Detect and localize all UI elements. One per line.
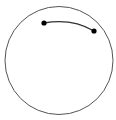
circle-arc-diagram <box>0 0 116 120</box>
arc-endpoint-right <box>91 28 96 33</box>
arc-endpoint-left <box>41 20 46 25</box>
background <box>0 0 116 120</box>
